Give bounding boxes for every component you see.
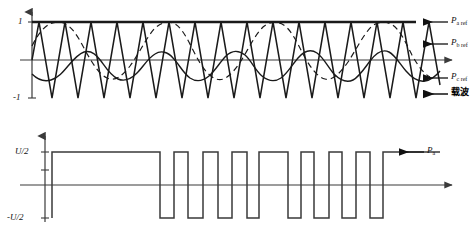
label-pa-ref-base: P — [451, 15, 457, 25]
label-pc-ref-base: P — [451, 71, 457, 81]
label-carrier: 载波 — [451, 88, 469, 97]
label-pb-ref-sub: b ref — [457, 42, 468, 48]
label-pc-ref: Pc ref — [451, 72, 467, 81]
spwm-figure: 1 -1 Pa ref Pb ref Pc ref 载波 U/2 -U/2 Pa — [0, 0, 471, 240]
curve-pc-ref — [32, 51, 440, 81]
label-pb-ref: Pb ref — [451, 38, 468, 47]
bottom-axis-label-plus: U/2 — [15, 147, 29, 156]
label-pb-ref-base: P — [451, 37, 457, 47]
waveform-canvas — [0, 0, 471, 240]
label-pc-ref-sub: c ref — [457, 76, 468, 82]
label-pa: Pa — [427, 146, 435, 155]
label-pa-base: P — [427, 145, 433, 155]
label-pa-sub: a — [433, 150, 436, 156]
label-pa-ref: Pa ref — [451, 16, 467, 25]
top-panel — [20, 12, 452, 98]
top-axis-label-minus-one: -1 — [13, 93, 21, 102]
label-pa-ref-sub: a ref — [457, 20, 468, 26]
top-axis-label-plus-one: 1 — [18, 17, 23, 26]
bottom-axis-label-minus: -U/2 — [7, 213, 24, 222]
curve-pb-ref — [32, 22, 430, 80]
bottom-panel — [20, 136, 452, 222]
